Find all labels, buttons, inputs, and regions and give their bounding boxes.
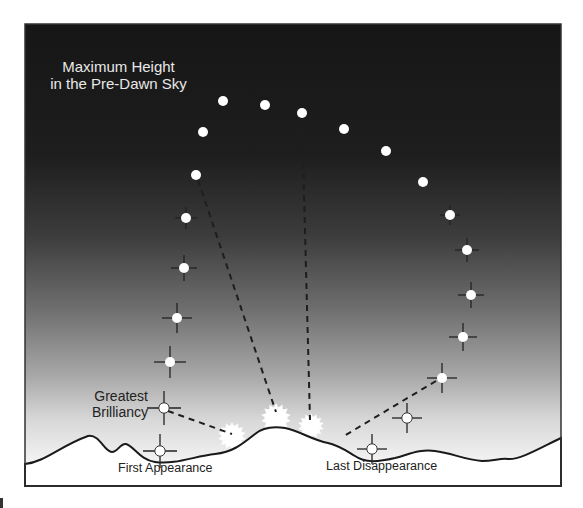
greatest-brilliancy-line-1: Greatest: [82, 388, 148, 404]
last-disappearance-label: Last Disappearance: [326, 459, 437, 473]
title-line-2: in the Pre-Dawn Sky: [46, 75, 191, 92]
edge-mark: [0, 498, 3, 508]
venus-position-icon: [381, 146, 391, 156]
venus-position-icon: [198, 127, 208, 137]
title-line-1: Maximum Height: [46, 58, 191, 75]
greatest-brilliancy-label: Greatest Brilliancy: [82, 388, 148, 420]
venus-position-icon: [218, 96, 228, 106]
venus-position-icon: [191, 170, 201, 180]
venus-position-icon: [418, 177, 428, 187]
greatest-brilliancy-line-2: Brilliancy: [82, 404, 148, 420]
first-appearance-label: First Appearance: [118, 461, 213, 475]
venus-position-icon: [297, 108, 307, 118]
diagram-title: Maximum Height in the Pre-Dawn Sky: [46, 58, 191, 93]
venus-position-icon: [339, 124, 349, 134]
venus-position-icon: [260, 100, 270, 110]
